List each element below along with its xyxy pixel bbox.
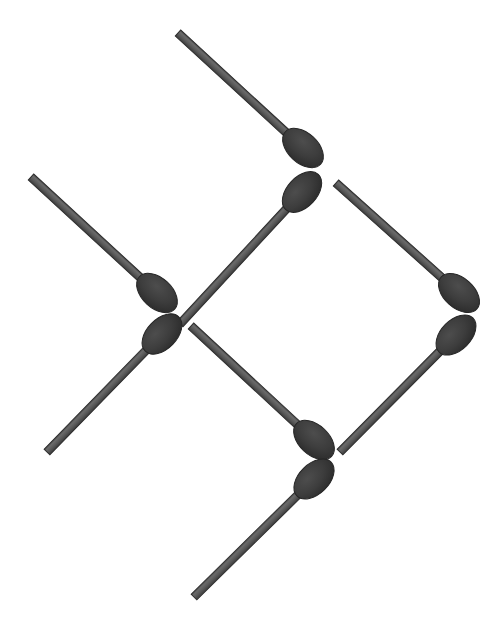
matchstick-scene xyxy=(0,0,504,633)
matchstick-canvas xyxy=(0,0,504,633)
